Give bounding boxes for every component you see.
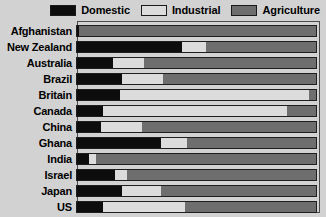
legend-label-agriculture: Agriculture [262, 5, 320, 16]
bar-segment-domestic [77, 202, 103, 212]
bar-segment-domestic [77, 74, 122, 84]
category-label: Japan [0, 185, 75, 197]
bar-segment-industrial [122, 74, 163, 84]
legend-entry-agriculture: Agriculture [231, 5, 320, 16]
bar-segment-industrial [182, 42, 206, 52]
bar-segment-domestic [77, 170, 115, 180]
bar-segment-industrial [103, 202, 184, 212]
stacked-bar [76, 185, 317, 197]
bar-segment-industrial [122, 186, 160, 196]
stacked-bar [76, 169, 317, 181]
bar-segment-industrial [89, 154, 96, 164]
category-label: China [0, 121, 75, 133]
bar-segment-agriculture [287, 106, 316, 116]
stacked-bar [76, 57, 317, 69]
bar-row: Ghana [0, 135, 326, 151]
bar-segment-domestic [77, 42, 182, 52]
stacked-bar [76, 41, 317, 53]
category-label: Britain [0, 89, 75, 101]
bar-row: Afghanistan [0, 23, 326, 39]
bar-segment-industrial [113, 58, 144, 68]
chart-legend: DomesticIndustrialAgriculture [0, 0, 326, 21]
bar-row: Britain [0, 87, 326, 103]
stacked-bar [76, 137, 317, 149]
plot-area: AfghanistanNew ZealandAustraliaBrazilBri… [0, 21, 326, 217]
bar-row: Canada [0, 103, 326, 119]
stacked-bar [76, 25, 317, 37]
bar-row: Brazil [0, 71, 326, 87]
bar-segment-domestic [77, 186, 122, 196]
bar-segment-domestic [77, 58, 113, 68]
bar-segment-industrial [103, 106, 287, 116]
bar-segment-domestic [77, 122, 101, 132]
bar-segment-industrial [115, 170, 127, 180]
bar-segment-domestic [77, 106, 103, 116]
legend-label-industrial: Industrial [172, 5, 221, 16]
bar-row: Japan [0, 183, 326, 199]
stacked-bar [76, 121, 317, 133]
bar-segment-domestic [77, 154, 89, 164]
bar-row: Australia [0, 55, 326, 71]
bar-segment-domestic [77, 138, 161, 148]
stacked-bar [76, 105, 317, 117]
bar-segment-agriculture [127, 170, 316, 180]
legend-swatch-domestic-icon [50, 5, 76, 16]
bar-row: China [0, 119, 326, 135]
category-label: Australia [0, 57, 75, 69]
bar-segment-agriculture [309, 90, 316, 100]
bar-segment-industrial [120, 90, 309, 100]
bar-segment-industrial [161, 138, 187, 148]
bar-row: New Zealand [0, 39, 326, 55]
category-label: Brazil [0, 73, 75, 85]
stacked-bar [76, 89, 317, 101]
legend-swatch-agriculture-icon [231, 5, 257, 16]
bar-segment-agriculture [161, 186, 316, 196]
bar-segment-agriculture [206, 42, 316, 52]
legend-label-domestic: Domestic [81, 5, 130, 16]
bar-segment-agriculture [163, 74, 316, 84]
water-use-stacked-bar-chart: DomesticIndustrialAgriculture Afghanista… [0, 0, 326, 217]
bar-row: US [0, 199, 326, 215]
category-label: India [0, 153, 75, 165]
stacked-bar [76, 73, 317, 85]
category-label: US [0, 201, 75, 213]
legend-swatch-industrial-icon [141, 5, 167, 16]
category-label: Afghanistan [0, 25, 75, 37]
bar-segment-agriculture [142, 122, 316, 132]
bar-segment-agriculture [144, 58, 316, 68]
bar-segment-agriculture [79, 26, 316, 36]
category-label: Canada [0, 105, 75, 117]
bar-row: Israel [0, 167, 326, 183]
bar-segment-agriculture [187, 138, 316, 148]
bar-segment-industrial [101, 122, 142, 132]
category-label: Ghana [0, 137, 75, 149]
stacked-bar [76, 201, 317, 213]
category-label: New Zealand [0, 41, 75, 53]
bar-rows: AfghanistanNew ZealandAustraliaBrazilBri… [0, 21, 326, 217]
stacked-bar [76, 153, 317, 165]
bar-segment-domestic [77, 90, 120, 100]
bar-segment-agriculture [185, 202, 316, 212]
bar-row: India [0, 151, 326, 167]
category-label: Israel [0, 169, 75, 181]
bar-segment-agriculture [96, 154, 316, 164]
legend-entry-domestic: Domestic [50, 5, 130, 16]
legend-entry-industrial: Industrial [141, 5, 221, 16]
